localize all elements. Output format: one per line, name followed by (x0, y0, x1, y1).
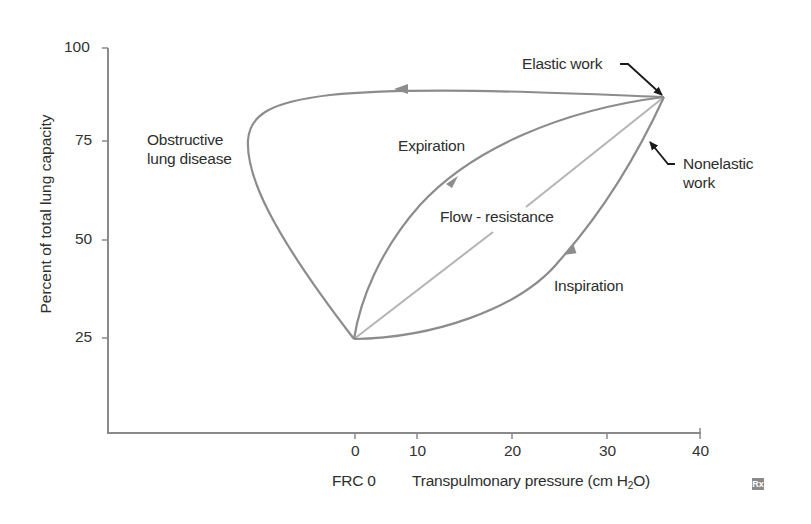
y-axis-label: Percent of total lung capacity (37, 109, 55, 319)
y-tick-label-100: 100 (64, 38, 90, 56)
x-tick-label-10: 10 (409, 442, 426, 460)
x-tick-label-20: 20 (504, 442, 521, 460)
x-tick-label-0: 0 (351, 442, 360, 460)
obstructive-label-line2: lung disease (147, 150, 232, 168)
x-axis-label: Transpulmonary pressure (cm H2O) (412, 472, 650, 495)
elastic-work-pointer (620, 64, 662, 95)
elastic-work-label: Elastic work (522, 55, 602, 73)
y-tick-label-75: 75 (75, 131, 92, 149)
rx-logo-icon: Rx (752, 478, 764, 490)
y-tick-label-25: 25 (75, 328, 92, 346)
x-axis-label-main: Transpulmonary pressure (cm H (412, 472, 628, 489)
obstructive-arrow-icon (394, 84, 408, 94)
nonelastic-work-label-line2: work (683, 174, 715, 192)
nonelastic-work-pointer (650, 142, 675, 164)
expiration-label: Expiration (398, 137, 465, 155)
diagram-canvas (0, 0, 811, 524)
x-tick-label-40: 40 (692, 442, 709, 460)
nonelastic-work-label-line1: Nonelastic (683, 155, 753, 173)
obstructive-label-line1: Obstructive (147, 131, 223, 149)
x-axis-frc-label: FRC 0 (332, 472, 376, 490)
inspiration-label: Inspiration (554, 277, 623, 295)
x-axis-label-end: O) (633, 472, 650, 489)
flow-resistance-label: Flow - resistance (440, 208, 554, 226)
x-tick-label-30: 30 (599, 442, 616, 460)
y-tick-label-50: 50 (75, 230, 92, 248)
